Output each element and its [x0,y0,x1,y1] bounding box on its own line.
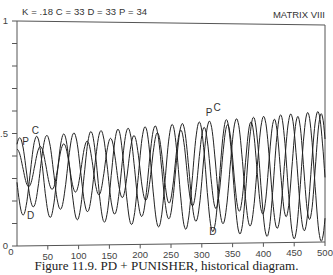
y-tick-label: 0 [3,240,8,251]
series-label-c: C [214,102,221,113]
x-tick-label: 0 [8,246,13,257]
parameter-header: K = .18 C = 33 D = 33 P = 34 [22,6,147,17]
chart-canvas: 0.51050100150200250300350400450500 CCDDP… [0,0,333,275]
series-label-d: D [209,226,216,237]
y-tick-label: 1 [3,15,8,26]
series-c [17,112,325,231]
top-border [17,21,325,25]
series-label-p: P [206,107,213,118]
y-tick-label: .5 [0,128,8,139]
chart-series [17,112,325,242]
figure-caption: Figure 11.9. PD + PUNISHER, historical d… [0,258,333,274]
x-tick-label: 500 [317,247,333,258]
chart-axes: 0.51050100150200250300350400450500 [0,15,333,262]
series-label-p: P [22,136,29,147]
matrix-label: MATRIX VIII [273,9,325,20]
series-label-c: C [32,125,39,136]
series-label-d: D [27,210,34,221]
x-tick-label: 450 [286,247,302,258]
